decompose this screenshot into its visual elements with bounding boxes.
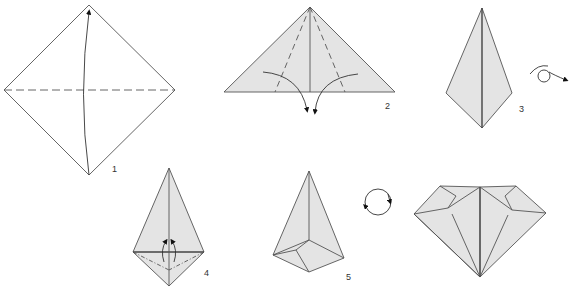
rotate-icon: [365, 189, 391, 215]
final-diamond-figure: [414, 186, 546, 277]
step-1-figure: [4, 5, 175, 175]
step-4-figure: [133, 168, 204, 286]
step-2-figure: [224, 7, 395, 112]
step-5-figure: [273, 171, 344, 272]
step-number: 1: [112, 164, 117, 174]
step-number: 4: [204, 268, 209, 278]
origami-diagram: [0, 0, 575, 288]
step-number: 5: [346, 272, 351, 282]
step-3-figure: [446, 8, 512, 128]
turn-over-icon: [530, 66, 566, 82]
step-number: 3: [519, 104, 524, 114]
step-number: 2: [385, 101, 390, 111]
